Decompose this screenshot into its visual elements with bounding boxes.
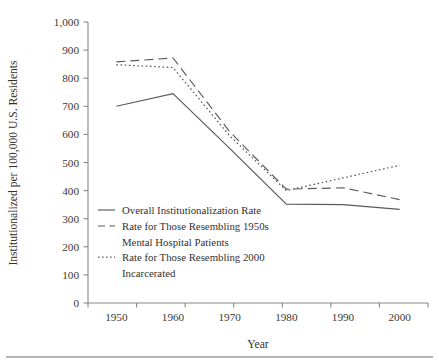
legend-label-1: Rate for Those Resembling 1950s [122,220,269,232]
series-line-2 [116,65,399,191]
y-tick-label: 700 [62,100,79,112]
y-tick-label: 0 [73,297,79,309]
y-tick-label: 400 [62,185,79,197]
series-line-1 [116,58,399,200]
x-tick-label: 2000 [388,311,411,323]
x-axis: 195019601970198019902000 [88,303,428,323]
x-tick-label: 1950 [105,311,128,323]
x-axis-title: Year [247,338,269,351]
y-tick-label: 1,000 [54,16,80,28]
legend-label-2-line2: Incarcerated [122,267,176,279]
y-axis: 01002003004005006007008009001,000 [54,16,88,309]
y-tick-label: 600 [62,128,79,140]
y-tick-label: 200 [62,241,79,253]
series-line-0 [116,94,399,210]
y-tick-label: 500 [62,157,79,169]
y-tick-label: 800 [62,72,79,84]
legend-label-2: Rate for Those Resembling 2000 [122,251,265,263]
y-axis-title: Institutionalized per 100,000 U.S. Resid… [7,60,20,266]
legend-label-0: Overall Institutionalization Rate [122,204,261,216]
y-tick-label: 100 [62,269,79,281]
x-tick-label: 1970 [218,311,241,323]
x-tick-label: 1960 [162,311,185,323]
y-tick-label: 900 [62,44,79,56]
chart-figure: 01002003004005006007008009001,000 195019… [0,0,439,364]
x-tick-label: 1980 [275,311,298,323]
legend-label-1-line2: Mental Hospital Patients [122,236,229,248]
x-tick-label: 1990 [332,311,355,323]
series-group [116,58,399,209]
y-tick-label: 300 [62,213,79,225]
chart-legend: Overall Institutionalization RateRate fo… [98,204,269,279]
